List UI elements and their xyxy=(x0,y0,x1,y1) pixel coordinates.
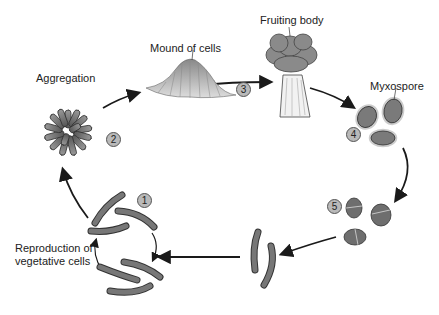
arrow-myxospore-to-germination xyxy=(396,148,408,200)
stage-badge-5: 5 xyxy=(327,199,342,214)
arrow-aggregation-to-mound xyxy=(103,93,138,108)
stage-badge-3: 3 xyxy=(236,82,251,97)
arrow-division-right xyxy=(152,233,156,260)
stage-badge-4: 4 xyxy=(346,127,361,142)
label-myxospore: Myxospore xyxy=(370,80,424,93)
label-fruiting-body: Fruiting body xyxy=(260,14,324,27)
label-aggregation: Aggregation xyxy=(36,72,95,85)
fruiting-body xyxy=(266,27,317,117)
stage-badge-1: 1 xyxy=(137,193,152,208)
arrow-reproduction-to-aggregation xyxy=(63,170,88,218)
label-mound-of-cells: Mound of cells xyxy=(150,42,221,55)
arrow-germination-to-vegetative xyxy=(282,237,336,254)
stage-badge-2: 2 xyxy=(106,132,121,147)
vegetative-cells xyxy=(254,232,272,285)
label-reproduction-line1: Reproduction of xyxy=(15,242,93,255)
aggregation-cells xyxy=(44,108,92,156)
germinating-spores xyxy=(344,198,391,245)
mound-of-cells xyxy=(146,50,236,98)
arrow-fruiting-to-myxospore xyxy=(310,88,353,107)
reproduction-cells xyxy=(91,195,160,292)
label-reproduction-line2: vegetative cells xyxy=(15,255,90,268)
